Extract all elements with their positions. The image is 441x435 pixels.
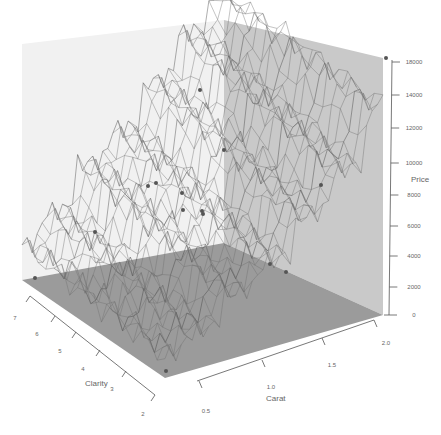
data-point xyxy=(198,88,202,92)
data-point xyxy=(284,270,288,274)
carat-tick-label: 0.5 xyxy=(202,408,211,414)
data-point xyxy=(384,56,388,60)
price-tick-label: 8000 xyxy=(407,192,421,198)
data-point xyxy=(146,184,150,188)
price-axis-title: Price xyxy=(411,175,430,184)
data-point xyxy=(222,148,226,152)
clarity-tick-label: 5 xyxy=(58,348,62,354)
carat-tick-label: 1.5 xyxy=(328,362,337,368)
data-point xyxy=(319,183,323,187)
price-tick-label: 0 xyxy=(412,312,416,318)
clarity-tick-label: 7 xyxy=(13,315,17,321)
data-point xyxy=(164,369,168,373)
clarity-tick-label: 2 xyxy=(141,411,145,417)
carat-tick-label: 1.0 xyxy=(267,384,276,390)
price-tick-label: 4000 xyxy=(407,253,421,259)
carat-axis-title: Carat xyxy=(266,394,286,403)
data-point xyxy=(268,262,272,266)
clarity-tick-label: 3 xyxy=(110,386,114,392)
surface-3d-chart: 0200040006000800010000120001400018000 Pr… xyxy=(0,0,441,435)
price-axis: 0200040006000800010000120001400018000 Pr… xyxy=(384,59,430,318)
data-point xyxy=(93,230,97,234)
data-point xyxy=(180,191,184,195)
data-point xyxy=(181,208,185,212)
data-point xyxy=(33,276,37,280)
price-tick-label: 10000 xyxy=(406,160,423,166)
price-tick-label: 2000 xyxy=(407,284,421,290)
data-point xyxy=(201,212,205,216)
clarity-axis-title: Clarity xyxy=(85,379,108,388)
price-tick-label: 12000 xyxy=(406,125,423,131)
price-tick-label: 14000 xyxy=(406,92,423,98)
data-point xyxy=(154,181,158,185)
clarity-tick-label: 6 xyxy=(35,331,39,337)
price-tick-label: 6000 xyxy=(407,223,421,229)
clarity-tick-label: 4 xyxy=(81,366,85,372)
price-tick-label: 18000 xyxy=(406,59,423,65)
carat-tick-label: 2.0 xyxy=(382,340,391,346)
